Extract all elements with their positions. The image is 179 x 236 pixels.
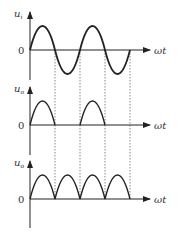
x-label: ωt — [154, 120, 167, 131]
x-label: ωt — [154, 45, 167, 56]
rectifier-waveform-diagram: ui 0 ωt uo 0 ωt uo 0 ωt — [0, 0, 179, 236]
panel-input: ui 0 ωt — [14, 8, 167, 80]
x-label: ωt — [154, 194, 167, 205]
origin-label: 0 — [18, 120, 24, 131]
panel-output-half: uo 0 ωt — [14, 83, 167, 155]
origin-label: 0 — [18, 45, 24, 56]
origin-label: 0 — [18, 194, 24, 205]
y-label: uo — [14, 157, 24, 169]
y-label: ui — [14, 8, 22, 20]
panel-output-full: uo 0 ωt — [14, 157, 167, 228]
half-wave — [30, 101, 105, 125]
y-label: uo — [14, 83, 24, 95]
